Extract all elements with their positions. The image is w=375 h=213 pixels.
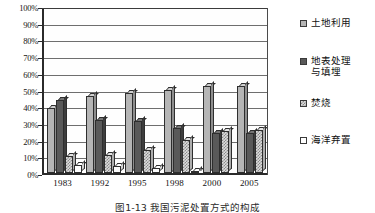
bar-group <box>161 8 200 173</box>
legend-item[interactable]: 土地利用 <box>300 18 351 29</box>
y-tick-label: 20% <box>23 137 38 146</box>
y-tick-label: 40% <box>23 104 38 113</box>
bar-groups <box>44 8 268 173</box>
y-tick-label: 80% <box>23 37 38 46</box>
chart-figure: 0%10%20%30%40%50%60%70%80%90%100% 198319… <box>0 0 375 213</box>
bar-front-face <box>203 86 211 173</box>
y-axis: 0%10%20%30%40%50%60%70%80%90%100% <box>0 0 42 183</box>
x-tick-label: 1983 <box>44 178 81 192</box>
legend-item[interactable]: 海洋弃置 <box>300 135 351 146</box>
legend-label: 焚烧 <box>311 98 331 109</box>
x-tick-label: 1992 <box>81 178 118 192</box>
figure-caption: 图1-13 我国污泥处置方式的构成 <box>0 202 375 213</box>
bar-group <box>83 8 122 173</box>
bar-front-face <box>143 150 151 173</box>
bar <box>152 168 160 173</box>
bar <box>125 93 133 173</box>
bar <box>255 130 263 173</box>
bar-group <box>200 8 234 173</box>
bar-side-face <box>190 135 193 171</box>
legend-swatch-incineration-icon <box>300 100 307 107</box>
legend-swatch-landfill-icon <box>300 58 307 65</box>
bar <box>47 108 55 173</box>
y-tick-label: 60% <box>23 71 38 80</box>
bar-front-face <box>221 131 229 173</box>
bar-group <box>234 8 268 173</box>
legend-item[interactable]: 地表处理 与填埋 <box>300 56 351 77</box>
x-tick-label: 2000 <box>193 178 230 192</box>
legend-swatch-ocean-dumping-icon <box>300 137 307 144</box>
bar-front-face <box>237 86 245 173</box>
bar-front-face <box>125 93 133 173</box>
bar <box>104 155 112 173</box>
x-tick-label: 1998 <box>156 178 193 192</box>
bar <box>203 86 211 173</box>
bar-front-face <box>173 128 181 173</box>
bar <box>173 128 181 173</box>
bar-front-face <box>246 133 254 173</box>
bar <box>246 133 254 173</box>
bar <box>134 121 142 173</box>
bar-front-face <box>191 171 199 173</box>
legend-label: 地表处理 与填埋 <box>311 56 351 77</box>
bar-side-face <box>263 125 266 171</box>
bar-front-face <box>47 108 55 173</box>
bar-group <box>44 8 83 173</box>
bar-front-face <box>86 96 94 173</box>
legend-label: 海洋弃置 <box>311 135 351 146</box>
y-tick-label: 0% <box>27 171 38 180</box>
bar <box>182 140 190 173</box>
legend-item[interactable]: 焚烧 <box>300 98 331 109</box>
bar <box>212 133 220 173</box>
bar-group <box>122 8 161 173</box>
bar <box>221 131 229 173</box>
bar <box>113 166 121 173</box>
bar-front-face <box>74 165 82 173</box>
y-tick-label: 70% <box>23 54 38 63</box>
x-tick-label: 1995 <box>119 178 156 192</box>
y-tick-label: 90% <box>23 20 38 29</box>
y-tick-label: 100% <box>19 4 38 13</box>
legend-label: 土地利用 <box>311 18 351 29</box>
bar-front-face <box>182 140 190 173</box>
bar <box>143 150 151 173</box>
x-tick-label: 2005 <box>231 178 268 192</box>
bar <box>65 156 73 173</box>
bar <box>191 171 199 173</box>
x-axis-labels: 198319921995199820002005 <box>44 178 268 192</box>
bar <box>86 96 94 173</box>
bar-front-face <box>56 100 64 173</box>
legend-swatch-land-use-icon <box>300 20 307 27</box>
bar-front-face <box>113 166 121 173</box>
y-tick-mark <box>38 175 42 176</box>
bar-side-face <box>229 127 232 171</box>
bar-front-face <box>95 120 103 173</box>
bar-front-face <box>164 90 172 174</box>
chart-legend: 土地利用地表处理 与填埋焚烧海洋弃置 <box>300 18 375 168</box>
bar-front-face <box>255 130 263 173</box>
bar-front-face <box>152 168 160 173</box>
bar-front-face <box>212 133 220 173</box>
bar <box>237 86 245 173</box>
y-tick-label: 30% <box>23 121 38 130</box>
bar <box>164 90 172 174</box>
bar-front-face <box>65 156 73 173</box>
bar-front-face <box>134 121 142 173</box>
y-tick-label: 50% <box>23 87 38 96</box>
bar <box>95 120 103 173</box>
bar <box>74 165 82 173</box>
bar <box>56 100 64 173</box>
bar-front-face <box>104 155 112 173</box>
y-tick-label: 10% <box>23 154 38 163</box>
